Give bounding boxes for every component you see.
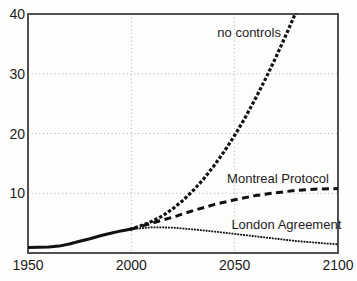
y-tick-label: 40 (9, 6, 25, 22)
series-curve-no-controls (131, 10, 296, 229)
ozone-projection-figure: 102030401950200020502100no controlsMontr… (0, 0, 357, 281)
x-tick-label: 2100 (322, 257, 353, 273)
x-tick-label: 2050 (219, 257, 250, 273)
x-tick-label: 2000 (116, 257, 147, 273)
series-label-london-agreement: London Agreement (231, 217, 341, 232)
series-label-no-controls: no controls (217, 25, 281, 40)
series-curve-historical (28, 229, 131, 248)
x-tick-label: 1950 (12, 257, 43, 273)
y-tick-label: 20 (9, 126, 25, 142)
series-label-montreal-protocol: Montreal Protocol (227, 171, 329, 186)
chart-svg: 102030401950200020502100no controlsMontr… (0, 0, 357, 281)
y-tick-label: 10 (9, 185, 25, 201)
y-tick-label: 30 (9, 66, 25, 82)
